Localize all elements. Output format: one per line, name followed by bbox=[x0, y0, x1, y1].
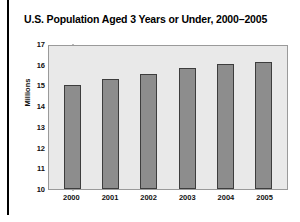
bar-slot bbox=[245, 46, 282, 189]
plot-area bbox=[48, 45, 288, 190]
x-tick-label: 2003 bbox=[169, 193, 206, 207]
x-axis-tick-labels: 2000 2001 2002 2003 2004 2005 bbox=[48, 193, 288, 207]
bar-slot bbox=[207, 46, 244, 189]
chart-figure: U.S. Population Aged 3 Years or Under, 2… bbox=[0, 0, 300, 222]
bar-2003[interactable] bbox=[179, 68, 196, 189]
x-tick-label: 2002 bbox=[130, 193, 167, 207]
bar-2002[interactable] bbox=[140, 74, 157, 189]
y-tick-label: 15 bbox=[26, 82, 45, 90]
x-tick-label: 2005 bbox=[246, 193, 283, 207]
y-tick-label: 13 bbox=[26, 124, 45, 132]
bar-2005[interactable] bbox=[255, 62, 272, 189]
bars-layer bbox=[49, 46, 287, 189]
left-vertical-rule bbox=[7, 0, 9, 215]
bar-slot bbox=[54, 46, 91, 189]
bar-2001[interactable] bbox=[102, 79, 119, 189]
y-tick-label: 12 bbox=[26, 145, 45, 153]
y-tick-label: 14 bbox=[26, 103, 45, 111]
x-tick-label: 2000 bbox=[53, 193, 90, 207]
page-title: U.S. Population Aged 3 Years or Under, 2… bbox=[24, 13, 292, 25]
bar-slot bbox=[169, 46, 206, 189]
y-tick-label: 17 bbox=[26, 41, 45, 49]
x-tick-label: 2001 bbox=[91, 193, 128, 207]
bar-2004[interactable] bbox=[217, 64, 234, 189]
bar-2000[interactable] bbox=[64, 85, 81, 189]
y-tick-label: 16 bbox=[26, 62, 45, 70]
y-tick-label: 10 bbox=[26, 186, 45, 194]
bar-slot bbox=[92, 46, 129, 189]
y-tick-label: 11 bbox=[26, 165, 45, 173]
bar-slot bbox=[130, 46, 167, 189]
y-axis-tick-labels: 17 16 15 14 13 12 11 10 bbox=[26, 45, 45, 190]
x-tick-label: 2004 bbox=[207, 193, 244, 207]
